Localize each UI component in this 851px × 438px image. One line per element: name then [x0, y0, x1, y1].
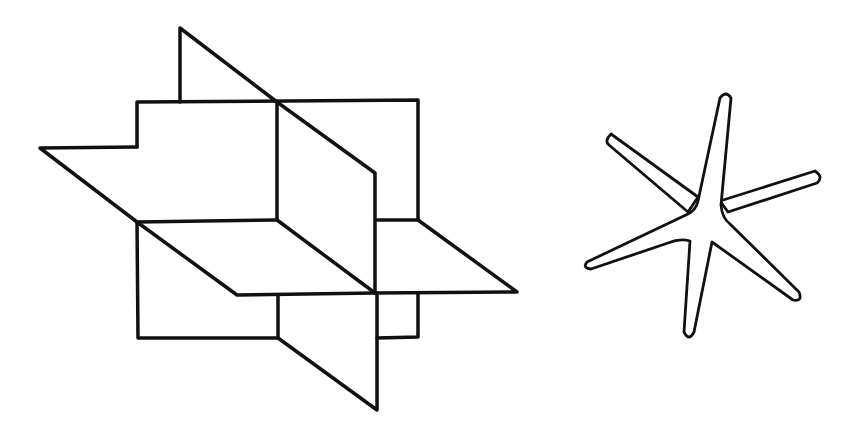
star-arm-main-body	[585, 94, 800, 337]
horizontal-plane-front-edge	[137, 222, 375, 295]
diagonal-plane-bottom	[278, 293, 377, 410]
diagonal-plane-center-edge	[277, 220, 375, 293]
star-arm-right	[720, 171, 820, 212]
diagram-canvas	[0, 0, 851, 438]
star-arm-upper-left	[607, 134, 698, 212]
horizontal-plane-right	[375, 220, 517, 293]
diagonal-plane-top-edge	[180, 28, 277, 102]
frontal-plane-bottom-right	[377, 293, 418, 338]
horizontal-plane-back-edge	[137, 220, 277, 222]
horizontal-plane-left	[40, 147, 137, 222]
six-armed-star-figure	[585, 94, 820, 337]
diagonal-plane-upper-right	[277, 102, 375, 293]
intersecting-planes-figure	[40, 28, 517, 410]
